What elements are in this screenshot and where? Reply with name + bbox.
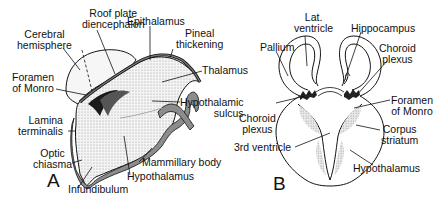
label-line: plexus [379, 54, 416, 65]
label-line: plexus [239, 124, 276, 135]
label-hypothalamus-a: Hypothalamus [127, 171, 194, 182]
label-line: thickening [176, 39, 223, 50]
label-thalamus: Thalamus [202, 65, 248, 76]
label-foramen-monro-b: Foramen of Monro [391, 95, 433, 117]
label-choroid-plexus-right: Choroid plexus [379, 43, 416, 65]
label-optic-chiasma: Optic chiasma [33, 148, 72, 170]
label-lamina-terminalis: Lamina terminalis [18, 115, 63, 137]
label-foramen-monro-a: Foramen of Monro [12, 72, 54, 94]
anatomy-figure: Roof plate diencephalon Epithalamus Cere… [0, 0, 448, 203]
panel-letter-a: A [47, 171, 60, 190]
label-hippocampus: Hippocampus [351, 23, 415, 34]
label-cerebral-hemisphere: Cerebral hemisphere [17, 29, 72, 51]
label-line: of Monro [12, 83, 54, 94]
label-hypothalamic-sulcus: Hypothalamic sulcus [180, 97, 244, 119]
label-hypothalamus-b: Hypothalamus [353, 163, 420, 174]
label-pineal-thickening: Pineal thickening [176, 28, 223, 50]
label-lat-ventricle: Lat. ventricle [294, 12, 333, 34]
label-epithalamus: Epithalamus [127, 16, 185, 27]
label-third-ventricle: 3rd ventricle [234, 142, 291, 153]
label-line: of Monro [391, 106, 433, 117]
panel-letter-b: B [273, 174, 286, 193]
label-mammillary-body: Mammillary body [142, 157, 221, 168]
label-infundibulum: Infundibulum [68, 184, 128, 195]
label-line: ventricle [294, 23, 333, 34]
label-corpus-striatum: Corpus striatum [381, 124, 418, 146]
label-line: terminalis [18, 126, 63, 137]
label-line: sulcus [180, 108, 244, 119]
label-line: striatum [381, 135, 418, 146]
label-choroid-plexus-left: Choroid plexus [239, 113, 276, 135]
label-line: chiasma [33, 159, 72, 170]
label-line: hemisphere [17, 40, 72, 51]
label-pallium: Pallium [260, 42, 294, 53]
